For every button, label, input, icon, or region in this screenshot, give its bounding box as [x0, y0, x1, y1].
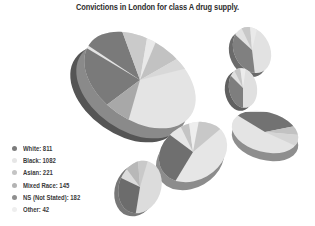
pie-disc-right-bottom — [227, 110, 305, 168]
legend-label: Asian: 221 — [23, 169, 53, 176]
legend-swatch-icon — [12, 158, 17, 163]
legend-label: Mixed Race: 145 — [23, 182, 69, 189]
legend-item-black: Black: 1082 — [12, 154, 90, 166]
legend-item-mixed-race: Mixed Race: 145 — [12, 179, 90, 191]
legend-swatch-icon — [12, 183, 17, 188]
legend-label: Black: 1082 — [23, 157, 56, 164]
legend-label: White: 811 — [23, 145, 52, 152]
chart-figure: Convictions in London for class A drug s… — [0, 0, 315, 226]
legend-item-not-stated: NS (Not Stated): 182 — [12, 191, 90, 203]
legend-label: NS (Not Stated): 182 — [23, 194, 80, 201]
pie-disc-bottom-left — [107, 157, 165, 222]
legend-item-asian: Asian: 221 — [12, 167, 90, 179]
legend-swatch-icon — [12, 207, 17, 212]
legend-label: Other: 42 — [23, 206, 49, 213]
chart-legend: White: 811 Black: 1082 Asian: 221 Mixed … — [12, 142, 90, 216]
legend-item-other: Other: 42 — [12, 203, 90, 215]
legend-swatch-icon — [12, 170, 17, 175]
legend-swatch-icon — [12, 195, 17, 200]
legend-item-white: White: 811 — [12, 142, 90, 154]
legend-swatch-icon — [12, 146, 17, 151]
